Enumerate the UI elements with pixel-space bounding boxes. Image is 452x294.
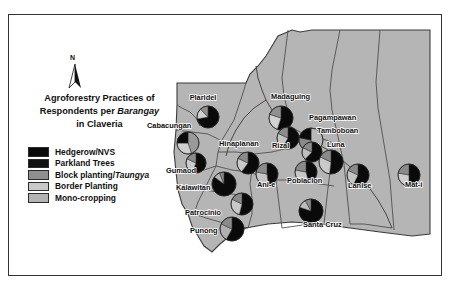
- title-line-2-plain: Respondents per: [40, 106, 118, 116]
- map-legend: Hedgerow/NVSParkland TreesBlock planting…: [28, 146, 178, 204]
- title-line-1: Agroforestry Practices of: [22, 92, 177, 105]
- title-line-2: Respondents per Barangay: [22, 105, 177, 118]
- pie-chart-cabacungan: [177, 132, 199, 154]
- title-line-2-italic: Barangay: [117, 106, 159, 116]
- figure-title: Agroforestry Practices of Respondents pe…: [22, 92, 177, 131]
- north-letter: N: [70, 54, 75, 61]
- legend-item: Mono-cropping: [28, 192, 178, 204]
- barangay-label: Kalawitan: [176, 183, 211, 192]
- legend-item: Hedgerow/NVS: [28, 146, 178, 158]
- legend-label: Border Planting: [55, 181, 118, 191]
- pie-chart-punong: [220, 217, 244, 241]
- legend-label-plain: Block planting/: [55, 170, 115, 180]
- pie-chart-kalawitan: [212, 172, 236, 196]
- barangay-label: Plaridel: [190, 93, 217, 102]
- legend-swatch: [28, 182, 49, 192]
- title-line-3: in Claveria: [22, 118, 177, 131]
- legend-item: Parkland Trees: [28, 158, 178, 170]
- barangay-label: Pagampawan: [309, 113, 357, 122]
- legend-swatch: [28, 147, 49, 157]
- legend-swatch: [28, 193, 49, 203]
- pie-chart-luna: [319, 150, 343, 174]
- legend-item: Block planting/Taungya: [28, 169, 178, 181]
- figure-root: PlaridelCabacunganHinaplananMadaguingRiz…: [0, 0, 452, 294]
- legend-label: Hedgerow/NVS: [55, 147, 115, 157]
- barangay-label: Lanise: [348, 181, 371, 190]
- legend-label: Block planting/Taungya: [55, 170, 149, 180]
- legend-label-italic: Taungya: [115, 170, 149, 180]
- barangay-label: Santa Cruz: [303, 220, 342, 229]
- barangay-label: Patrocinio: [185, 208, 222, 217]
- barangay-label: Luna: [327, 140, 346, 149]
- pie-chart-patrocinio: [231, 193, 253, 215]
- legend-swatch: [28, 159, 49, 169]
- barangay-label: Mat-i: [405, 180, 422, 189]
- barangay-label: Rizal: [272, 141, 289, 150]
- barangay-label: Punong: [190, 226, 218, 235]
- legend-item: Border Planting: [28, 181, 178, 193]
- pie-chart-plaridel: [197, 106, 219, 128]
- legend-label: Parkland Trees: [55, 158, 115, 168]
- north-arrow: N: [64, 56, 88, 90]
- pie-chart-hinaplanan: [237, 152, 259, 174]
- barangay-label: Hinaplanan: [219, 139, 259, 148]
- barangay-label: Ani-e: [257, 180, 275, 189]
- barangay-label: Poblacion: [287, 176, 323, 185]
- north-arrow-glyph: [64, 56, 88, 90]
- pie-chart-madaguing: [269, 106, 293, 130]
- legend-label: Mono-cropping: [55, 193, 116, 203]
- legend-swatch: [28, 170, 49, 180]
- barangay-label: Tamboboan: [317, 126, 359, 135]
- barangay-label: Madaguing: [271, 92, 310, 101]
